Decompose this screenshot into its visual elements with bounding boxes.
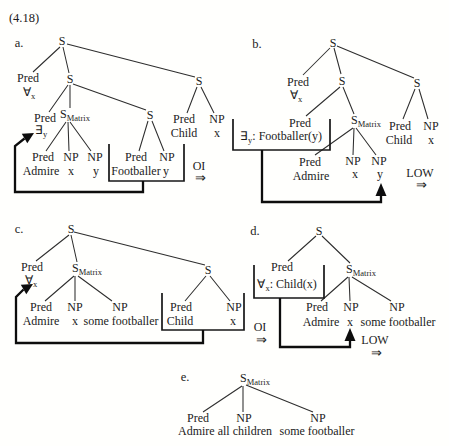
e-s-matrix: SMatrix [240,372,270,387]
e-phrase-admire-all-children: Admire all children [178,425,272,437]
e-np-some-footballer: NP [310,412,325,424]
e-phrase-some-footballer: some footballer [280,425,355,437]
panel-e-label: e. [181,371,190,384]
panel-e: e. SMatrix Pred NP NP Admire all childre… [0,0,449,446]
e-s-matrix-base: S [240,371,247,385]
e-np-all-children: NP [236,412,251,424]
e-s-matrix-sub: Matrix [247,377,270,387]
e-pred: Pred [187,412,209,424]
figure-4-18: (4.18) a. S Pred ∀x S S Pred ∃y SMatrix … [0,0,449,446]
